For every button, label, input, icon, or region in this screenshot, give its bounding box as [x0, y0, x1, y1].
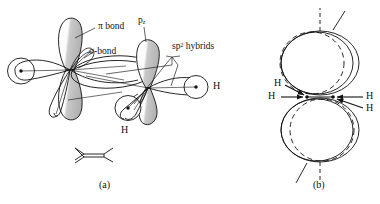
pi-upper-inner-b: [281, 32, 353, 94]
sigma-bond-edge-top: [72, 60, 136, 70]
pi-lower-dashed-ellipse-b: [290, 99, 354, 161]
label-sp2-hybrids: sp2 hybrids: [172, 42, 214, 52]
axis-stubs-top-b: [320, 8, 345, 31]
label-p-orbital: pz: [138, 16, 145, 26]
label-sigma-bond: σ-bond: [89, 47, 116, 57]
axis-stub-top-solid-b: [333, 11, 345, 30]
caption-panel-a: (a): [99, 180, 110, 190]
h-bond-upper-left-b: [285, 85, 304, 95]
label-hydrogen-bottom-a: H: [121, 125, 128, 135]
orbital-diagram-figure: π bond σ-bond pz sp2 hybrids H H (a) H H…: [0, 0, 380, 204]
caption-panel-b: (b): [313, 180, 325, 190]
axis-stub-bottom-solid-b: [296, 163, 307, 183]
sigma-bond-edge-bottom: [72, 71, 138, 83]
ethylene-skeletal-sketch: [75, 148, 113, 163]
pi-lobe-upper-dashed-b: [280, 32, 344, 94]
pi-lobe-lower-b: [281, 98, 359, 162]
pi-lower-inner-b: [281, 99, 353, 161]
pi-lobe-lower-dashed-b: [290, 99, 354, 161]
label-sp2-tail: hybrids: [183, 41, 214, 51]
label-p-orbital-sub: z: [143, 19, 146, 25]
panel-a-group: [8, 18, 209, 163]
label-hydrogen-upper-left-b: H: [274, 78, 281, 88]
figure-svg: [0, 0, 380, 204]
label-pi-bond: π bond: [98, 22, 124, 32]
panel-b-group: [280, 8, 363, 184]
label-hydrogen-lower-right-b: H: [366, 103, 373, 113]
label-hydrogen-right-a: H: [213, 81, 220, 91]
p-lobe-upper-right: [137, 40, 160, 88]
pi-upper-dashed-ellipse-b: [280, 32, 344, 94]
label-hydrogen-upper-right-b: H: [366, 91, 373, 101]
pi-lobe-upper-b: [281, 31, 359, 95]
label-hydrogen-lower-left-b: H: [268, 91, 275, 101]
